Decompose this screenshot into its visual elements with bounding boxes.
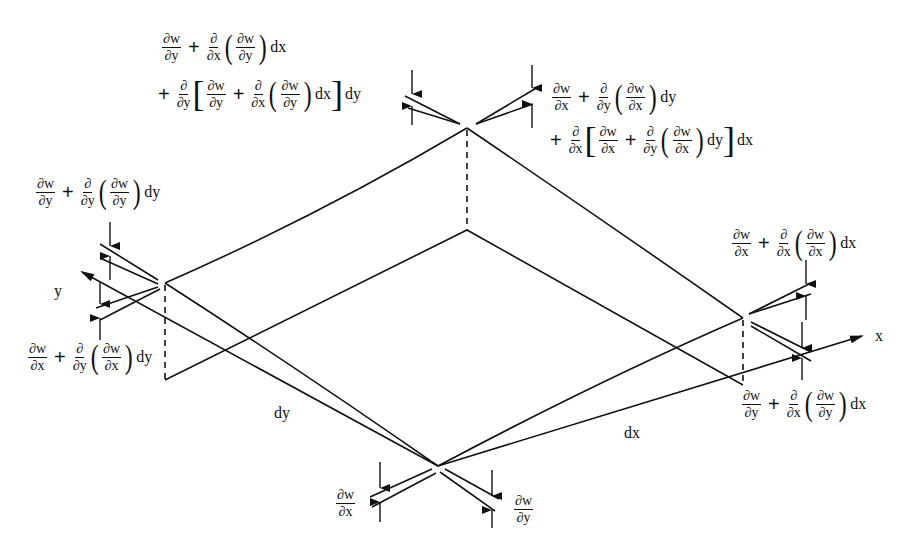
deformed-right-edge [438,318,743,466]
plate-diagram [0,0,923,560]
edge-label-dx: dx [624,424,640,442]
label-top-slope-y-line1: ∂w∂y + ∂∂x ( ∂w∂y ) dx [160,30,286,64]
label-left-slope-x: ∂w∂x + ∂∂y ( ∂w∂x ) dy [26,340,152,374]
label-right-slope-x: ∂w∂x + ∂∂x ( ∂w∂x ) dx [730,226,856,260]
deformed-left-edge [165,283,438,466]
y-axis-label: y [54,282,62,300]
label-right-slope-y: ∂w∂y + ∂∂x ( ∂w∂y ) dx [740,387,866,421]
base-plate-back-edges [165,230,743,385]
label-top-slope-x-line2: + ∂∂x [ ∂w∂x + ∂∂y ( ∂w∂x ) dy ] dx [550,122,753,158]
label-left-slope-y: ∂w∂y + ∂∂y ( ∂w∂y ) dy [34,175,160,209]
label-bottom-slope-x: ∂w∂x [334,488,357,519]
label-top-slope-x-line1: ∂w∂x + ∂∂y ( ∂w∂x ) dy [550,80,676,114]
deformed-back-left-edge [165,128,467,283]
edge-label-dy: dy [274,404,290,422]
label-top-slope-y-line2: + ∂∂y [ ∂w∂y + ∂∂x ( ∂w∂y ) dx ] dy [158,76,361,112]
label-bottom-slope-y: ∂w∂y [512,494,535,525]
x-axis-label: x [875,327,883,345]
